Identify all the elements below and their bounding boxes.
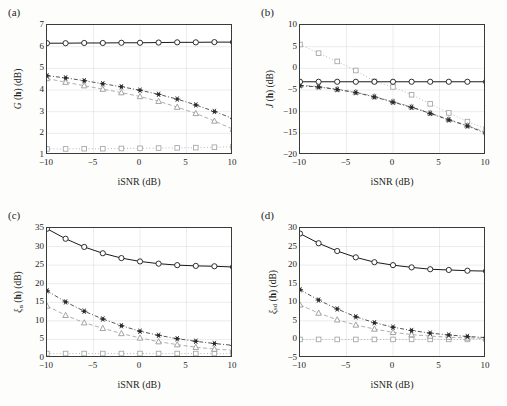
xtick-label: −5 — [331, 157, 361, 167]
panel-a-label: (a) — [8, 6, 20, 18]
xtick-label: 0 — [377, 157, 407, 167]
panel-c-xticks: −10−50510 — [46, 360, 232, 374]
ytick-label: 0 — [275, 62, 297, 72]
xtick-label: 5 — [171, 157, 201, 167]
panel-d-label: (d) — [261, 209, 274, 221]
panel-c-plot-area — [46, 227, 232, 357]
panel-d-yticks: −5051015202530 — [273, 227, 297, 357]
panel-c-yticks: 05101520253035 — [20, 227, 44, 357]
xtick-label: −5 — [78, 360, 108, 370]
ytick-label: 30 — [22, 241, 44, 251]
ytick-label: −15 — [275, 127, 297, 137]
xtick-label: 10 — [470, 157, 500, 167]
xtick-label: 10 — [217, 360, 247, 370]
ytick-label: 6 — [22, 41, 44, 51]
series-triangle-dashed — [47, 303, 232, 352]
series-square-dotted — [47, 351, 232, 356]
ytick-label: 25 — [22, 259, 44, 269]
xtick-label: −10 — [31, 157, 61, 167]
panel-a-plot-area — [46, 24, 232, 154]
ytick-label: 5 — [22, 333, 44, 343]
ytick-label: 4 — [22, 84, 44, 94]
ytick-label: 2 — [22, 127, 44, 137]
xtick-label: −5 — [331, 360, 361, 370]
xtick-label: 0 — [124, 157, 154, 167]
series-triangle-dashed — [300, 302, 485, 341]
panel-a-xticks: −10−50510 — [46, 157, 232, 171]
series-triangle-dashed — [47, 76, 232, 132]
panel-c-xlabel: iSNR (dB) — [46, 379, 232, 390]
panel-c-label: (c) — [8, 209, 20, 221]
panel-b-plot-area — [299, 24, 485, 154]
ytick-label: 15 — [22, 296, 44, 306]
panel-d-xticks: −10−50510 — [299, 360, 485, 374]
series-circle-solid — [300, 231, 485, 274]
panel-b-xticks: −10−50510 — [299, 157, 485, 171]
ytick-label: 15 — [275, 278, 297, 288]
ytick-label: 5 — [275, 315, 297, 325]
ytick-label: 25 — [275, 241, 297, 251]
series-square-dotted — [300, 42, 485, 131]
series-circle-solid — [47, 40, 232, 46]
panel-b: (b)J (h) (dB)iSNR (dB)−20−15−10−50510−10… — [253, 0, 506, 203]
panel-d-xlabel: iSNR (dB) — [299, 379, 485, 390]
xtick-label: −10 — [284, 157, 314, 167]
ytick-label: 20 — [275, 259, 297, 269]
ytick-label: −10 — [275, 106, 297, 116]
ytick-label: 35 — [22, 222, 44, 232]
panel-d: (d)ξsd (h) (dB)iSNR (dB)−5051015202530−1… — [253, 203, 506, 406]
panel-d-plot-area — [299, 227, 485, 357]
xtick-label: 10 — [470, 360, 500, 370]
xtick-label: 5 — [171, 360, 201, 370]
xtick-label: −10 — [284, 360, 314, 370]
series-circle-solid — [47, 228, 232, 270]
panel-a: (a)G (h) (dB)iSNR (dB)1234567−10−50510 — [0, 0, 253, 203]
ytick-label: 10 — [22, 315, 44, 325]
panel-a-yticks: 1234567 — [20, 24, 44, 154]
xtick-label: 0 — [377, 360, 407, 370]
ytick-label: −5 — [275, 84, 297, 94]
panel-c: (c)ξn (h) (dB)iSNR (dB)05101520253035−10… — [0, 203, 253, 406]
series-circle-solid — [300, 79, 485, 84]
panel-a-xlabel: iSNR (dB) — [46, 176, 232, 187]
ytick-label: 20 — [22, 278, 44, 288]
ytick-label: 7 — [22, 19, 44, 29]
xtick-label: 0 — [124, 360, 154, 370]
ytick-label: 10 — [275, 296, 297, 306]
series-square-dotted — [47, 144, 232, 151]
xtick-label: −5 — [78, 157, 108, 167]
panel-b-yticks: −20−15−10−50510 — [273, 24, 297, 154]
xtick-label: −10 — [31, 360, 61, 370]
ytick-label: 5 — [22, 62, 44, 72]
panel-b-label: (b) — [261, 6, 274, 18]
xtick-label: 10 — [217, 157, 247, 167]
panel-b-xlabel: iSNR (dB) — [299, 176, 485, 187]
ytick-label: 3 — [22, 106, 44, 116]
xtick-label: 5 — [424, 360, 454, 370]
xtick-label: 5 — [424, 157, 454, 167]
series-star-dashdot — [300, 83, 485, 136]
ytick-label: 0 — [275, 333, 297, 343]
ytick-label: 30 — [275, 222, 297, 232]
ytick-label: 10 — [275, 19, 297, 29]
ytick-label: 5 — [275, 41, 297, 51]
figure-canvas: (a)G (h) (dB)iSNR (dB)1234567−10−50510(b… — [0, 0, 507, 406]
